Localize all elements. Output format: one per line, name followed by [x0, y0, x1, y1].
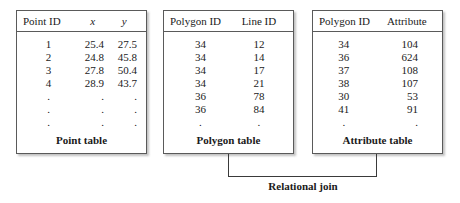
cell-line-id: 12	[231, 38, 287, 51]
table-row: 37 108	[313, 64, 442, 77]
cell-x: 28.9	[74, 77, 107, 90]
cell-polygon-id: 37	[319, 64, 369, 77]
table-row: 34 17	[164, 64, 293, 77]
cell-ellipsis: .	[74, 90, 107, 103]
cell-polygon-id: 36	[170, 90, 231, 103]
table-row: 34 14	[164, 51, 293, 64]
cell-point-id: 2	[23, 51, 74, 64]
table-row: 4 28.9 43.7	[17, 77, 146, 90]
column-header-polygon-id: Polygon ID	[319, 16, 378, 27]
cell-polygon-id: 36	[319, 51, 369, 64]
cell-ellipsis: .	[369, 116, 437, 129]
table-row: 34 104	[313, 38, 442, 51]
polygon-table: Polygon ID Line ID 34 12 34 14 34 17 34 …	[163, 10, 294, 154]
cell-ellipsis: .	[23, 116, 74, 129]
table-row-ellipsis: . . .	[17, 116, 146, 129]
cell-ellipsis: .	[107, 90, 140, 103]
table-row-ellipsis: . . .	[17, 90, 146, 103]
cell-polygon-id: 38	[319, 77, 369, 90]
relational-join-diagram: Point ID x y 1 25.4 27.5 2 24.8 45.8 3 2…	[0, 0, 460, 203]
cell-ellipsis: .	[319, 116, 369, 129]
column-header-line-id: Line ID	[231, 16, 287, 27]
cell-x: 24.8	[74, 51, 107, 64]
table-row: 3 27.8 50.4	[17, 64, 146, 77]
column-header-polygon-id: Polygon ID	[170, 16, 231, 27]
cell-line-id: 14	[231, 51, 287, 64]
cell-line-id: 21	[231, 77, 287, 90]
relational-join-label: Relational join	[228, 180, 378, 193]
join-connector-left-line	[228, 154, 229, 177]
cell-ellipsis: .	[107, 103, 140, 116]
cell-polygon-id: 34	[170, 38, 231, 51]
column-header-y: y	[108, 16, 140, 27]
cell-polygon-id: 34	[170, 51, 231, 64]
attribute-table: Polygon ID Attribute 34 104 36 624 37 10…	[312, 10, 443, 154]
cell-ellipsis: .	[107, 116, 140, 129]
attribute-table-caption: Attribute table	[313, 134, 442, 146]
cell-ellipsis: .	[170, 116, 231, 129]
table-body: 34 104 36 624 37 108 38 107 30 53 41 91	[313, 32, 442, 129]
table-row-ellipsis: . .	[164, 116, 293, 129]
join-connector-horizontal-line	[228, 176, 377, 177]
column-header-point-id: Point ID	[23, 16, 77, 27]
cell-line-id: 78	[231, 90, 287, 103]
cell-y: 43.7	[107, 77, 140, 90]
cell-y: 50.4	[107, 64, 140, 77]
cell-line-id: 17	[231, 64, 287, 77]
polygon-table-caption: Polygon table	[164, 134, 293, 146]
cell-ellipsis: .	[74, 103, 107, 116]
table-row: 2 24.8 45.8	[17, 51, 146, 64]
cell-ellipsis: .	[23, 90, 74, 103]
point-table: Point ID x y 1 25.4 27.5 2 24.8 45.8 3 2…	[16, 10, 147, 154]
table-header-row: Polygon ID Attribute	[313, 11, 442, 32]
cell-attribute: 107	[369, 77, 437, 90]
table-header-row: Point ID x y	[17, 11, 146, 32]
table-body: 34 12 34 14 34 17 34 21 36 78 36 84	[164, 32, 293, 129]
cell-y: 45.8	[107, 51, 140, 64]
cell-attribute: 53	[369, 90, 437, 103]
column-header-x: x	[77, 16, 109, 27]
cell-polygon-id: 41	[319, 103, 369, 116]
cell-point-id: 1	[23, 38, 74, 51]
cell-ellipsis: .	[23, 103, 74, 116]
table-row: 34 12	[164, 38, 293, 51]
cell-ellipsis: .	[74, 116, 107, 129]
column-header-attribute: Attribute	[378, 16, 437, 27]
cell-y: 27.5	[107, 38, 140, 51]
cell-point-id: 4	[23, 77, 74, 90]
table-row: 1 25.4 27.5	[17, 38, 146, 51]
table-header-row: Polygon ID Line ID	[164, 11, 293, 32]
cell-polygon-id: 36	[170, 103, 231, 116]
cell-x: 27.8	[74, 64, 107, 77]
cell-polygon-id: 34	[319, 38, 369, 51]
cell-point-id: 3	[23, 64, 74, 77]
table-row: 36 84	[164, 103, 293, 116]
cell-ellipsis: .	[231, 116, 287, 129]
table-row: 41 91	[313, 103, 442, 116]
table-row-ellipsis: . .	[313, 116, 442, 129]
table-row-ellipsis: . . .	[17, 103, 146, 116]
table-row: 38 107	[313, 77, 442, 90]
cell-attribute: 624	[369, 51, 437, 64]
cell-attribute: 91	[369, 103, 437, 116]
cell-polygon-id: 34	[170, 64, 231, 77]
table-row: 36 78	[164, 90, 293, 103]
cell-x: 25.4	[74, 38, 107, 51]
cell-polygon-id: 30	[319, 90, 369, 103]
cell-attribute: 104	[369, 38, 437, 51]
table-row: 36 624	[313, 51, 442, 64]
join-connector-right-line	[376, 154, 377, 177]
cell-attribute: 108	[369, 64, 437, 77]
point-table-caption: Point table	[17, 134, 146, 146]
table-row: 30 53	[313, 90, 442, 103]
table-body: 1 25.4 27.5 2 24.8 45.8 3 27.8 50.4 4 28…	[17, 32, 146, 129]
table-row: 34 21	[164, 77, 293, 90]
cell-polygon-id: 34	[170, 77, 231, 90]
cell-line-id: 84	[231, 103, 287, 116]
